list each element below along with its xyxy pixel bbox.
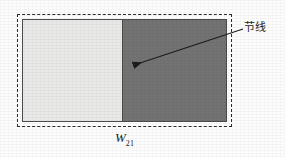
callout-label: 节线 (244, 21, 267, 34)
figure-canvas: 节线 W21 (0, 0, 285, 157)
dimension-label: W21 (0, 130, 249, 148)
dimension-symbol: W (115, 130, 126, 145)
region-dark (122, 20, 226, 121)
region-light (23, 20, 122, 121)
dimension-subscript: 21 (126, 139, 134, 148)
block-rectangle (22, 19, 227, 122)
